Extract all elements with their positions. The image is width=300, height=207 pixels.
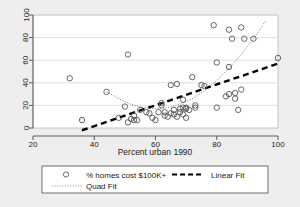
x-axis-tick-label: 40 xyxy=(90,140,99,149)
y-axis-tick-label: 0 xyxy=(22,125,31,130)
legend-label-quad-fit: Quad Fit xyxy=(86,182,117,191)
legend-label-linear-fit: Linear Fit xyxy=(211,171,245,180)
legend-label-scatter: % homes cost $100K+ xyxy=(86,171,167,180)
x-axis-tick-label: 100 xyxy=(271,140,285,149)
x-axis-tick-label: 80 xyxy=(212,140,221,149)
chart-legend: % homes cost $100K+ Linear Fit Quad Fit xyxy=(42,166,268,193)
y-axis-tick-label: 80 xyxy=(22,33,31,42)
scatter-chart: 020406080100 20406080100 Percent urban 1… xyxy=(0,0,300,207)
x-axis-tick-label: 20 xyxy=(29,140,38,149)
y-axis-tick-label: 100 xyxy=(22,8,31,22)
y-axis-tick-label: 60 xyxy=(22,55,31,64)
y-axis-tick-label: 20 xyxy=(22,100,31,109)
y-axis-tick-label: 40 xyxy=(22,78,31,87)
plot-area-background xyxy=(33,15,278,128)
x-axis-title: Percent urban 1990 xyxy=(118,147,193,157)
figure-container: 020406080100 20406080100 Percent urban 1… xyxy=(0,0,300,207)
